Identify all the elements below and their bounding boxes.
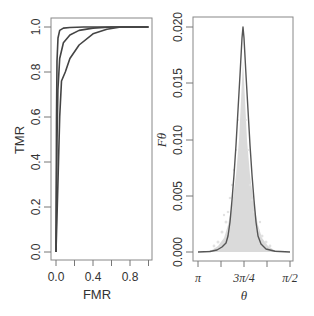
- density-y-tick-label: 0.005: [171, 181, 185, 211]
- density-plot: 0.020 0.015 0.010 0.005 0.000 Fθ π 3π/4 …: [154, 12, 298, 303]
- roc-plot: 1.0 0.8 0.6 0.4 0.2 0.0 TMR 0.0 0.4 0.8 …: [12, 18, 152, 302]
- density-x-axis-title: θ: [241, 288, 248, 303]
- roc-x-tick-labels: 0.0 0.4 0.8: [48, 270, 139, 284]
- roc-y-tick-label: 0.2: [29, 198, 43, 215]
- density-y-axis: [186, 27, 193, 252]
- density-y-tick-label: 0.000: [171, 237, 185, 267]
- density-y-tick-label: 0.010: [171, 125, 185, 155]
- density-x-tick-label: 3π/4: [232, 271, 254, 285]
- roc-x-axis-title: FMR: [83, 287, 111, 302]
- density-y-tick-label: 0.020: [171, 12, 185, 42]
- figure: 1.0 0.8 0.6 0.4 0.2 0.0 TMR 0.0 0.4 0.8 …: [0, 0, 314, 316]
- density-x-axis: [198, 261, 290, 267]
- roc-curve-3: [56, 27, 149, 252]
- roc-y-tick-labels: 1.0 0.8 0.6 0.4 0.2 0.0: [29, 18, 43, 260]
- density-x-tick-label: π: [195, 271, 202, 285]
- density-x-tick-label: π/2: [282, 271, 297, 285]
- roc-y-tick-label: 0.6: [29, 108, 43, 125]
- density-y-tick-labels: 0.020 0.015 0.010 0.005 0.000: [171, 12, 185, 267]
- roc-y-tick-label: 0.8: [29, 63, 43, 80]
- density-y-tick-label: 0.015: [171, 68, 185, 98]
- roc-y-axis-title: TMR: [12, 126, 27, 154]
- roc-y-tick-label: 1.0: [29, 18, 43, 35]
- roc-plot-frame: [51, 18, 152, 260]
- roc-curves: [56, 27, 149, 252]
- roc-y-tick-label: 0.0: [29, 243, 43, 260]
- density-y-axis-title: Fθ: [154, 132, 169, 148]
- roc-x-tick-label: 0.4: [85, 270, 102, 284]
- density-sample-cloud: [200, 60, 286, 252]
- roc-y-tick-label: 0.4: [29, 153, 43, 170]
- roc-y-axis: [44, 27, 51, 252]
- density-x-tick-labels: π 3π/4 π/2: [195, 271, 298, 285]
- roc-x-tick-label: 0.0: [48, 270, 65, 284]
- roc-x-tick-label: 0.8: [122, 270, 139, 284]
- roc-x-axis: [56, 260, 149, 266]
